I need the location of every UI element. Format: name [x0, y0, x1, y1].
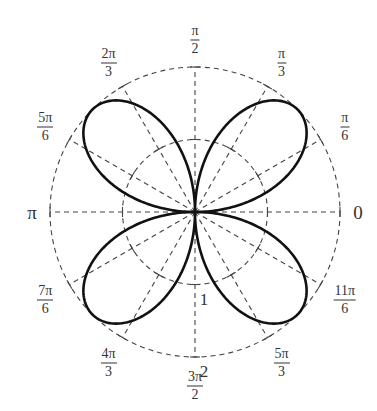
angle-label: π3 [277, 46, 286, 79]
polar-plot: 0π6π3π22π35π6π7π64π33π25π311π612 [0, 0, 377, 411]
grid-tick [154, 272, 163, 277]
angle-label: 5π6 [37, 109, 53, 142]
polar-plot-canvas [0, 0, 377, 411]
grid-tick [263, 335, 272, 340]
rose-curve [83, 100, 306, 323]
angle-label: π [27, 203, 37, 222]
grid-tick [67, 135, 72, 144]
grid-tick [318, 135, 323, 144]
angle-label: π2 [190, 23, 199, 56]
grid-tick [154, 147, 163, 152]
grid-tick [227, 272, 236, 277]
grid-tick [118, 84, 127, 89]
angle-label: 4π3 [100, 345, 116, 378]
grid-tick [318, 280, 323, 289]
grid-tick [67, 280, 72, 289]
angle-label: 0 [353, 203, 363, 222]
grid-tick [227, 147, 236, 152]
angle-label: 11π6 [334, 282, 357, 315]
radial-label: 2 [200, 363, 209, 380]
angle-label: 2π3 [100, 46, 116, 79]
grid-tick [130, 244, 135, 253]
angle-label: 7π6 [37, 282, 53, 315]
grid-tick [255, 244, 260, 253]
grid-tick [263, 84, 272, 89]
angle-label: 5π3 [273, 345, 289, 378]
grid-tick [255, 171, 260, 180]
grid-tick [118, 335, 127, 340]
radial-label: 1 [200, 290, 209, 307]
angle-label: π6 [340, 109, 349, 142]
grid-tick [130, 171, 135, 180]
